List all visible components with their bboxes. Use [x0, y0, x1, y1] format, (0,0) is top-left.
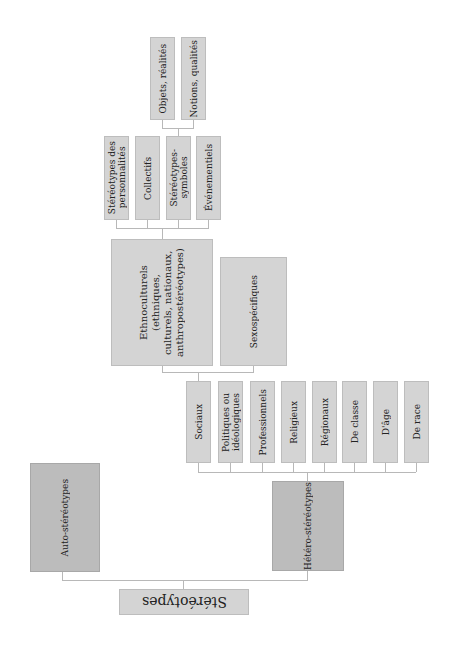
connector: [147, 220, 148, 228]
node-label: Religieux: [289, 401, 299, 444]
connector: [385, 463, 386, 472]
node-de-classe: De classe: [342, 381, 367, 463]
node-label: Stéréotypes: [142, 594, 227, 610]
node-ethnoculturels: Ethnoculturels (ethniques, culturels, na…: [111, 239, 213, 366]
node-label: De classe: [350, 400, 360, 443]
node-label: De race: [412, 404, 422, 439]
node-label: Stéréotypes des personnalités: [107, 141, 127, 214]
connector: [198, 372, 199, 381]
node-label: Stéréotypes- symboles: [169, 149, 189, 207]
node-label: Régionaux: [320, 398, 330, 446]
node-label: Sexospécifiques: [249, 275, 259, 348]
connector: [307, 571, 308, 580]
node-label: Hétéro-stéréotypes: [303, 482, 313, 570]
node-label: Auto-stéréotypes: [60, 479, 70, 556]
node-label: Objets, réalités: [158, 44, 168, 114]
node-politiques: Politiques ou idéologiques: [218, 381, 243, 463]
connector: [324, 463, 325, 472]
node-hetero-stereotypes: Hétéro-stéréotypes: [272, 481, 344, 571]
node-personnalites: Stéréotypes des personnalités: [104, 136, 129, 220]
connector: [178, 220, 179, 228]
node-religieux: Religieux: [281, 381, 306, 463]
node-label: Événementiels: [204, 144, 214, 211]
node-label: Sociaux: [194, 404, 204, 440]
node-regionaux: Régionaux: [312, 381, 337, 463]
connector: [198, 463, 199, 472]
connector: [162, 366, 163, 372]
connector: [262, 463, 263, 472]
connector: [193, 120, 194, 128]
connector: [416, 463, 417, 472]
node-dage: D'âge: [373, 381, 398, 463]
connector: [307, 472, 308, 481]
node-evenementiels: Événementiels: [196, 136, 221, 220]
node-notions-qualites: Notions, qualités: [181, 37, 206, 120]
connector: [230, 463, 231, 472]
node-label: Ethnoculturels (ethniques, culturels, na…: [138, 240, 186, 365]
node-label: Collectifs: [143, 157, 153, 200]
connector: [198, 472, 416, 473]
node-auto-stereotypes: Auto-stéréotypes: [30, 463, 100, 572]
node-collectifs: Collectifs: [135, 136, 160, 220]
connector: [253, 366, 254, 372]
node-sociaux: Sociaux: [186, 381, 211, 463]
node-root-stereotypes: Stéréotypes: [119, 589, 249, 615]
connector: [162, 372, 254, 373]
connector: [116, 220, 117, 228]
connector: [116, 228, 209, 229]
connector: [293, 463, 294, 472]
connector: [354, 463, 355, 472]
node-sexospecifiques: Sexospécifiques: [220, 257, 287, 366]
node-professionnels: Professionnels: [250, 381, 275, 463]
connector: [208, 220, 209, 228]
node-label: D'âge: [381, 409, 391, 435]
connector: [162, 228, 163, 239]
node-label: Professionnels: [258, 389, 268, 455]
node-de-race: De race: [404, 381, 429, 463]
connector: [183, 580, 184, 589]
node-label: Politiques ou idéologiques: [221, 393, 241, 452]
connector: [62, 580, 308, 581]
connector: [62, 572, 63, 580]
connector: [178, 128, 179, 136]
connector: [162, 128, 194, 129]
connector: [162, 120, 163, 128]
node-objets-realites: Objets, réalités: [150, 37, 175, 120]
node-label: Notions, qualités: [189, 40, 199, 118]
node-symboles: Stéréotypes- symboles: [166, 136, 191, 220]
